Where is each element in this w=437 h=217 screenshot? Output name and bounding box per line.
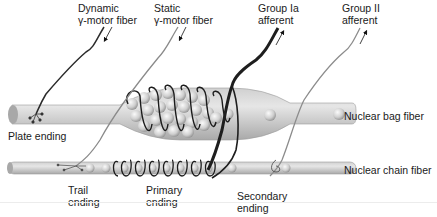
fiber-end-cap <box>8 105 18 124</box>
dynamic-arrow-icon <box>105 27 112 40</box>
label-group-ii: Group II afferent <box>342 2 380 26</box>
divider <box>0 202 437 203</box>
label-dynamic-gamma: Dynamic γ-motor fiber <box>78 2 137 26</box>
label-nuclear-bag-fiber: Nuclear bag fiber <box>344 110 424 122</box>
dynamic-gamma-motor-fiber <box>36 27 104 114</box>
label-group-ia: Group Ia afferent <box>258 2 299 26</box>
nuclear-chain-fiber <box>7 162 356 174</box>
label-plate-ending: Plate ending <box>8 130 66 142</box>
static-arrow-icon <box>180 27 186 39</box>
spindle-diagram <box>0 0 437 217</box>
group-ii-arrow-icon <box>360 32 366 44</box>
label-trail-ending: Trail ending <box>68 184 100 208</box>
label-static-gamma: Static γ-motor fiber <box>154 2 213 26</box>
group-ia-arrow-icon <box>276 32 283 45</box>
label-primary-ending: Primary ending <box>146 184 182 208</box>
label-nuclear-chain-fiber: Nuclear chain fiber <box>344 164 432 176</box>
